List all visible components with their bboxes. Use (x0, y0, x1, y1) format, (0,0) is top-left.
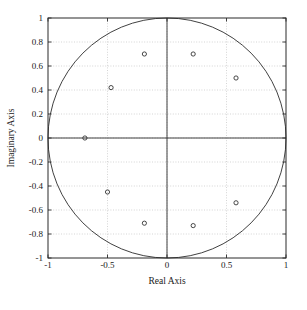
data-point-poles-7 (142, 221, 146, 225)
ytick-label-2: -0.6 (29, 205, 44, 215)
ytick-label-4: -0.2 (29, 157, 43, 167)
ytick-label-6: 0.2 (32, 109, 43, 119)
data-point-poles-3 (109, 86, 113, 90)
ytick-label-3: -0.4 (29, 181, 44, 191)
data-point-poles-8 (191, 224, 195, 228)
xtick-label-4: 1 (284, 260, 289, 270)
ytick-label-1: -0.8 (29, 229, 44, 239)
ytick-label-7: 0.4 (32, 85, 44, 95)
data-point-poles-1 (191, 52, 195, 56)
data-point-poles-0 (142, 52, 146, 56)
ytick-label-9: 0.8 (32, 37, 44, 47)
y-axis-title: Imaginary Axis (6, 108, 16, 167)
pole-zero-plot-figure: -1-0.500.51-1-0.8-0.6-0.4-0.200.20.40.60… (0, 0, 307, 310)
data-point-poles-2 (234, 76, 238, 80)
ytick-label-5: 0 (39, 133, 44, 143)
chart-canvas: -1-0.500.51-1-0.8-0.6-0.4-0.200.20.40.60… (0, 0, 307, 310)
xtick-label-1: -0.5 (100, 260, 115, 270)
xtick-label-0: -1 (44, 260, 52, 270)
x-axis-title: Real Axis (148, 276, 186, 286)
ytick-label-8: 0.6 (32, 61, 44, 71)
ytick-label-10: 1 (39, 13, 44, 23)
ytick-label-0: -1 (36, 253, 44, 263)
data-point-poles-6 (234, 201, 238, 205)
xtick-label-3: 0.5 (221, 260, 233, 270)
xtick-label-2: 0 (165, 260, 170, 270)
